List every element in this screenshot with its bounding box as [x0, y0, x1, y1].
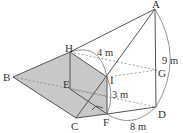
measure-FD: 8 m — [130, 121, 146, 132]
label-G: G — [158, 67, 166, 79]
label-I: I — [110, 74, 114, 86]
measure-AD: 9 m — [162, 55, 178, 66]
label-B: B — [3, 71, 10, 83]
label-C: C — [71, 120, 78, 132]
label-E: E — [63, 78, 70, 90]
label-A: A — [152, 0, 160, 10]
measure-HI: 4 m — [97, 47, 113, 58]
geometry-diagram: A H B E I G C F D 4 m 3 m 9 m 8 m — [0, 0, 183, 133]
measure-IF: 3 m — [112, 89, 128, 100]
label-D: D — [158, 108, 166, 120]
label-F: F — [103, 116, 109, 128]
label-H: H — [65, 42, 73, 54]
